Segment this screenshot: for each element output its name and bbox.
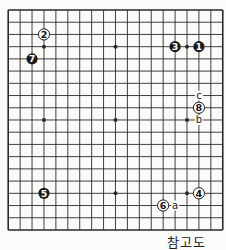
- star-point: [42, 118, 46, 122]
- point-label-a: a: [172, 200, 178, 211]
- move-number: 2: [41, 29, 48, 40]
- move-number: 3: [172, 41, 179, 52]
- star-point: [185, 191, 189, 195]
- black-stone-3: 3: [169, 41, 180, 52]
- diagram-caption: 참고도: [167, 236, 206, 249]
- move-number: 6: [160, 200, 167, 211]
- point-label-b: b: [196, 114, 202, 125]
- star-point: [113, 118, 117, 122]
- white-stone-8: 8: [193, 102, 204, 113]
- move-number: 8: [196, 102, 203, 113]
- star-point: [42, 45, 46, 49]
- black-stone-7: 7: [26, 53, 37, 64]
- move-number: 5: [41, 188, 48, 199]
- black-stone-5: 5: [38, 188, 49, 199]
- star-point: [113, 191, 117, 195]
- black-stone-1: 1: [193, 41, 204, 52]
- move-number: 7: [29, 53, 36, 64]
- star-point: [185, 118, 189, 122]
- star-point: [113, 45, 117, 49]
- white-stone-4: 4: [193, 188, 204, 199]
- star-point: [185, 45, 189, 49]
- white-stone-2: 2: [38, 29, 49, 40]
- point-label-c: c: [196, 90, 202, 101]
- move-number: 4: [196, 188, 203, 199]
- white-stone-6: 6: [158, 200, 169, 211]
- move-number: 1: [196, 41, 203, 52]
